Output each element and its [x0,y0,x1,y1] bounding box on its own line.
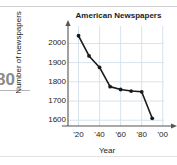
plot-area [0,0,177,165]
x-axis-arrowhead [171,123,177,128]
data-point-marker [87,54,91,58]
data-line-series [79,36,153,119]
data-point-marker [77,34,81,38]
y-axis-arrowhead [65,20,70,26]
data-point-marker [129,89,133,93]
line-chart: American Newspapers Number of newspapers… [0,0,177,165]
data-point-marker [98,66,102,70]
data-point-marker [140,90,144,94]
data-point-marker [108,85,112,89]
data-point-marker [119,88,123,92]
data-point-marker [150,116,154,120]
